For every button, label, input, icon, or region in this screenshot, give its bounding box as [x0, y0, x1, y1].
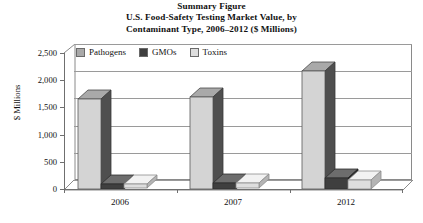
y-axis-title: $ Millions [13, 68, 22, 138]
gridline-1500 [74, 98, 412, 99]
y-tick-label-1500: 1,500 [38, 103, 57, 112]
y-tick-label-2000: 2,000 [38, 76, 57, 85]
legend-label-pathogens: Pathogens [89, 47, 126, 57]
y-tick-500 [60, 162, 65, 163]
chart-left-wall [64, 44, 75, 190]
y-tick-label-1000: 1,000 [38, 131, 57, 140]
figure-title: Summary Figure U.S. Food-Safety Testing … [0, 1, 423, 35]
chart-legend: Pathogens GMOs Toxins [76, 47, 240, 57]
y-tick-2500 [60, 53, 65, 54]
title-line-1: Summary Figure [0, 1, 423, 12]
x-tick-1 [177, 189, 178, 193]
y-tick-1000 [60, 135, 65, 136]
x-tick-label-2012: 2012 [306, 197, 386, 207]
x-tick-2 [290, 189, 291, 193]
y-tick-1500 [60, 107, 65, 108]
legend-item-pathogens: Pathogens [76, 47, 126, 57]
bar-2012-toxins [348, 171, 382, 200]
y-axis-line [64, 53, 65, 190]
title-line-3: Contaminant Type, 2006–2012 ($ Millions) [0, 24, 423, 35]
y-tick-label-500: 500 [44, 158, 57, 167]
x-axis-line [64, 189, 403, 190]
legend-label-toxins: Toxins [203, 47, 227, 57]
y-tick-label-2500: 2,500 [38, 49, 57, 58]
x-tick-left [64, 189, 65, 193]
gridline-2500 [74, 44, 412, 45]
legend-swatch-toxins-icon [190, 48, 199, 57]
figure-container: Summary Figure U.S. Food-Safety Testing … [0, 0, 423, 223]
plot-region: 2,500 2,000 1,500 1,000 500 0 $ Millions… [0, 38, 423, 223]
legend-item-gmos: GMOs [139, 47, 177, 57]
title-line-2: U.S. Food-Safety Testing Market Value, b… [0, 12, 423, 23]
legend-swatch-pathogens-icon [76, 48, 85, 57]
x-tick-label-2007: 2007 [193, 197, 273, 207]
chart-back-wall [74, 44, 412, 180]
gridline-500 [74, 153, 412, 154]
x-tick-right [402, 189, 403, 193]
gridline-2000 [74, 71, 412, 72]
legend-label-gmos: GMOs [152, 47, 177, 57]
x-tick-label-2006: 2006 [80, 197, 160, 207]
legend-swatch-gmos-icon [139, 48, 148, 57]
legend-item-toxins: Toxins [190, 47, 227, 57]
y-tick-label-0: 0 [53, 185, 57, 194]
y-tick-2000 [60, 80, 65, 81]
gridline-1000 [74, 126, 412, 127]
